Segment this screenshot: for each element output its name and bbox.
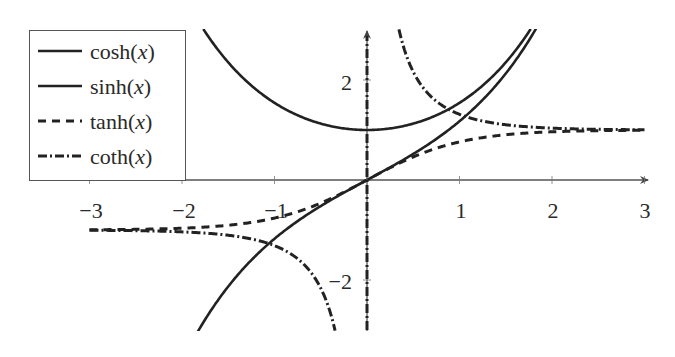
legend-arg: x	[134, 109, 145, 134]
x-tick-label: 1	[456, 198, 467, 223]
svg-text:cosh(x): cosh(x)	[90, 39, 155, 64]
legend-arg: x	[134, 144, 145, 169]
legend-label: cosh	[90, 39, 130, 64]
x-tick-label: −1	[264, 198, 287, 223]
legend-label: coth	[90, 144, 128, 169]
legend: cosh(x) sinh(x) tanh(x) coth(x)	[30, 31, 186, 181]
x-tick-label: −2	[172, 198, 195, 223]
coth-curve	[90, 230, 336, 330]
legend-label: sinh	[90, 74, 127, 99]
svg-text:sinh(x): sinh(x)	[90, 74, 151, 99]
svg-text:coth(x): coth(x)	[90, 144, 152, 169]
y-tick-label: −2	[329, 269, 352, 294]
legend-arg: x	[133, 74, 144, 99]
y-tick-labels: 2 −2	[329, 70, 352, 294]
legend-label: tanh	[90, 109, 128, 134]
legend-arg: x	[137, 39, 148, 64]
x-tick-labels: −3 −2 −1 1 2 3	[79, 198, 650, 223]
hyperbolic-functions-chart: −3 −2 −1 1 2 3 2 −2 cosh(x) sinh(x) tanh…	[0, 0, 675, 357]
x-tick-label: 3	[640, 198, 651, 223]
svg-text:tanh(x): tanh(x)	[90, 109, 152, 134]
x-tick-label: −3	[79, 198, 102, 223]
y-tick-label: 2	[341, 70, 352, 95]
x-tick-label: 2	[548, 198, 559, 223]
